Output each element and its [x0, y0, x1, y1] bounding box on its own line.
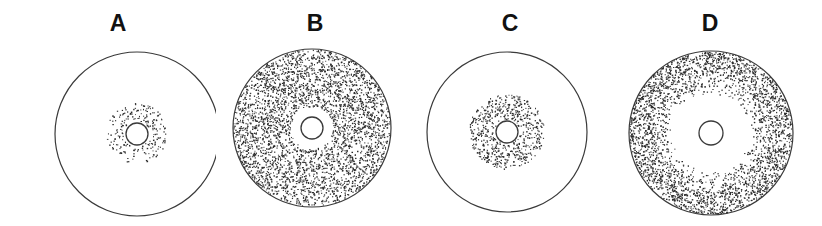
panel-d: D [612, 0, 808, 226]
figure-canvas: A B C D [0, 0, 822, 226]
panel-c: C [414, 0, 606, 226]
panel-label-c: C [414, 12, 606, 35]
panel-a-center-hole [126, 123, 148, 145]
panel-label-b: B [222, 12, 408, 35]
panel-b: B [222, 0, 408, 226]
panel-label-d: D [612, 12, 808, 35]
panel-label-a: A [20, 12, 216, 35]
panel-d-center-hole [699, 121, 723, 145]
panel-c-center-hole [496, 121, 518, 143]
panel-b-center-hole [301, 117, 323, 139]
panel-a: A [20, 0, 216, 226]
